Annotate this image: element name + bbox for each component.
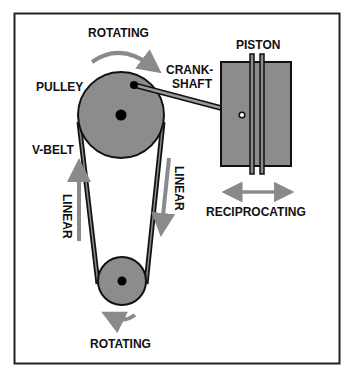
wrist-pin-icon	[239, 112, 245, 118]
small-pulley	[98, 257, 146, 305]
label-reciprocating: RECIPROCATING	[206, 205, 306, 219]
crank-pin-icon	[130, 81, 138, 89]
label-linear-left: LINEAR	[60, 194, 74, 239]
label-crank-line1: CRANK-	[166, 63, 213, 77]
motion-diagram: ROTATING PISTON CRANK- SHAFT PULLEY V-BE…	[0, 0, 347, 369]
label-vbelt: V-BELT	[32, 143, 74, 157]
label-piston: PISTON	[236, 38, 280, 52]
label-rotating-top: ROTATING	[88, 26, 149, 40]
label-rotating-bottom: ROTATING	[90, 337, 151, 351]
pulley-axle-icon	[116, 110, 127, 121]
small-pulley-axle-icon	[118, 277, 127, 286]
large-pulley	[78, 72, 164, 158]
label-linear-right: LINEAR	[172, 166, 186, 211]
label-crank-line2: SHAFT	[172, 77, 213, 91]
piston	[221, 54, 291, 174]
label-pulley: PULLEY	[36, 80, 83, 94]
